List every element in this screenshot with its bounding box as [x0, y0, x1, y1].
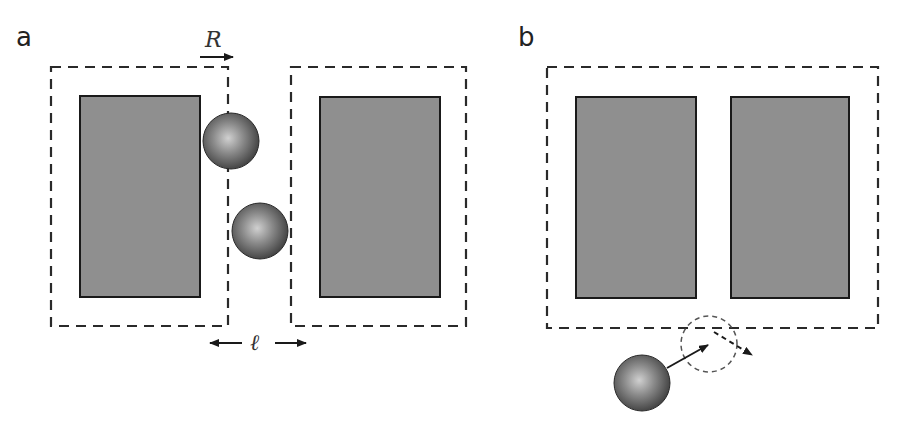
- right-block: [731, 97, 849, 298]
- dashed-interaction-circle: [681, 316, 737, 372]
- figure-canvas: a R ℓ b: [0, 0, 903, 425]
- incoming-arrow-icon: [667, 345, 708, 368]
- sphere-incoming: [614, 355, 670, 411]
- range-symbol: R: [204, 27, 222, 52]
- left-block: [80, 96, 200, 297]
- gap-symbol: ℓ: [250, 330, 260, 355]
- panel-a-label: a: [16, 22, 32, 52]
- panel-a: a R ℓ: [16, 22, 466, 355]
- sphere-upper: [203, 113, 259, 169]
- left-block: [576, 97, 696, 298]
- right-block: [320, 97, 440, 297]
- deflection-arrow-icon: [714, 332, 752, 355]
- panel-b-label: b: [518, 22, 535, 52]
- panel-b: b: [518, 22, 878, 411]
- sphere-lower: [232, 203, 288, 259]
